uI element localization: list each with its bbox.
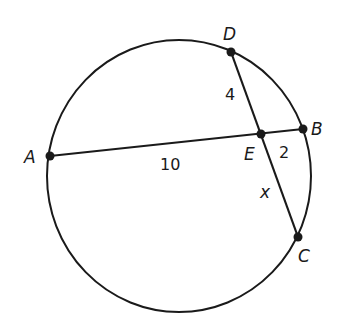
measure-ec: x xyxy=(259,182,271,202)
measure-de: 4 xyxy=(225,85,235,104)
point-b xyxy=(299,125,308,134)
circle xyxy=(47,40,311,312)
point-a xyxy=(46,152,55,161)
label-c: C xyxy=(298,246,310,266)
label-d: D xyxy=(223,24,236,44)
label-e: E xyxy=(244,144,255,164)
measure-eb: 2 xyxy=(279,143,289,162)
point-e xyxy=(257,130,266,139)
label-a: A xyxy=(23,147,36,167)
point-d xyxy=(227,48,236,57)
point-c xyxy=(294,233,303,242)
chord-diagram: A B C D E 10 2 4 x xyxy=(0,0,345,331)
label-b: B xyxy=(311,119,323,139)
measure-ae: 10 xyxy=(160,155,180,174)
